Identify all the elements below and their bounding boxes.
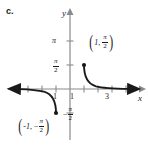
lower-point-x: -1 xyxy=(23,122,30,131)
upper-point-annotation: (1, π 2 ) xyxy=(88,32,114,50)
lower-branch-curve xyxy=(19,89,56,113)
figure-container: c. xyxy=(0,0,148,150)
fraction-denominator: 2 xyxy=(53,67,59,74)
x-tick-label-1: 1 xyxy=(70,92,74,101)
upper-branch-curve xyxy=(84,65,129,89)
fraction-pi-over-2: π 2 xyxy=(39,118,45,134)
fraction-denominator: 2 xyxy=(39,127,45,134)
x-tick-label-minus-1: 1 xyxy=(53,92,57,101)
x-axis-label: x xyxy=(138,93,142,103)
fraction-numerator: π xyxy=(102,34,108,41)
x-tick-label-3: 3 xyxy=(105,92,109,101)
fraction-numerator: π xyxy=(68,106,74,113)
fraction-numerator: π xyxy=(39,118,45,125)
close-paren: ) xyxy=(109,35,113,49)
y-tick-label-neg-pi-half: − π 2 xyxy=(63,104,73,122)
y-tick-label-pi-half: π 2 xyxy=(53,56,59,74)
lower-point-annotation: (-1, − π 2 ) xyxy=(17,116,50,134)
upper-branch xyxy=(82,63,129,89)
fraction-pi-over-2: π 2 xyxy=(53,58,59,74)
close-paren: ) xyxy=(45,119,49,133)
open-paren: ( xyxy=(18,119,22,133)
upper-branch-endpoint-dot xyxy=(82,63,86,67)
fraction-denominator: 2 xyxy=(102,43,108,50)
fraction-denominator: 2 xyxy=(68,115,74,122)
lower-branch-endpoint-dot xyxy=(54,111,58,115)
fraction-numerator: π xyxy=(53,58,59,65)
open-paren: ( xyxy=(89,35,93,49)
y-tick-label-pi: π xyxy=(52,36,56,45)
y-axis-label: y xyxy=(62,8,66,18)
fraction-pi-over-2: π 2 xyxy=(68,106,74,122)
fraction-pi-over-2: π 2 xyxy=(102,34,108,50)
